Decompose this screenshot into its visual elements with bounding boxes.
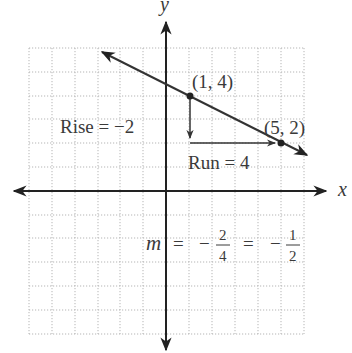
point-5-2 bbox=[278, 140, 285, 147]
slope-diagram: y x (1, 4) (5, 2) Rise = −2 Run = 4 m = … bbox=[0, 0, 352, 353]
point-5-2-label: (5, 2) bbox=[264, 117, 305, 139]
svg-text:2: 2 bbox=[219, 227, 227, 243]
svg-text:−: − bbox=[270, 233, 281, 254]
svg-text:=: = bbox=[243, 233, 254, 254]
svg-text:=: = bbox=[173, 233, 184, 254]
svg-text:4: 4 bbox=[219, 248, 227, 264]
rise-label: Rise = −2 bbox=[60, 116, 134, 137]
y-axis-label: y bbox=[158, 0, 169, 16]
slope-formula: m = − 2 4 = − 1 2 bbox=[146, 227, 300, 264]
sloped-line bbox=[102, 52, 307, 155]
run-label: Run = 4 bbox=[188, 152, 250, 173]
point-1-4-label: (1, 4) bbox=[192, 71, 233, 93]
svg-text:1: 1 bbox=[289, 227, 297, 243]
point-1-4 bbox=[187, 93, 194, 100]
x-axis-label: x bbox=[337, 178, 347, 200]
svg-text:−: − bbox=[199, 233, 210, 254]
svg-text:m: m bbox=[146, 231, 161, 255]
svg-text:2: 2 bbox=[289, 248, 297, 264]
